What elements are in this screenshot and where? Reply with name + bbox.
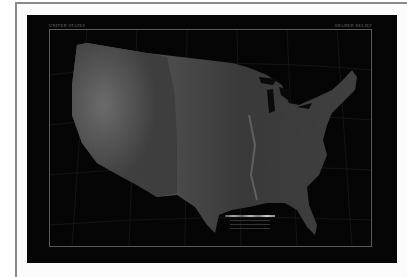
legend-text-line xyxy=(230,220,270,221)
map-poster: UNITED STATES SHADED RELIEF xyxy=(27,15,397,263)
legend-text-line xyxy=(230,224,270,225)
neatline xyxy=(49,29,372,247)
legend-text-line xyxy=(230,228,270,229)
elevation-scale-bar xyxy=(225,215,275,217)
map-legend xyxy=(225,215,275,237)
